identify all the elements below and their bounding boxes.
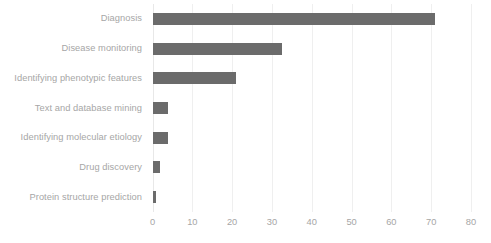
gridline: [471, 4, 472, 212]
x-tick-label: 0: [138, 216, 168, 228]
value-axis: 01020304050607080: [153, 216, 472, 236]
bar: [153, 161, 161, 173]
category-label: Identifying phenotypic features: [0, 73, 142, 84]
x-tick-label: 60: [376, 216, 406, 228]
x-tick-label: 40: [297, 216, 327, 228]
bar: [153, 72, 237, 84]
bar: [153, 132, 169, 144]
category-axis: Diagnosis Disease monitoring Identifying…: [0, 0, 148, 212]
bar: [153, 13, 436, 25]
category-label: Identifying molecular etiology: [0, 132, 142, 143]
bar: [153, 43, 282, 55]
category-label: Protein structure prediction: [0, 192, 142, 203]
bar: [153, 191, 157, 203]
x-tick-label: 70: [416, 216, 446, 228]
x-tick-label: 20: [217, 216, 247, 228]
category-label: Disease monitoring: [0, 43, 142, 54]
bar: [153, 102, 169, 114]
category-label: Text and database mining: [0, 103, 142, 114]
category-label: Drug discovery: [0, 162, 142, 173]
bar-series: [153, 4, 472, 212]
category-label: Diagnosis: [0, 13, 142, 24]
x-tick-label: 80: [456, 216, 486, 228]
bar-chart: Diagnosis Disease monitoring Identifying…: [0, 0, 491, 243]
plot-area: [153, 4, 472, 212]
x-tick-label: 50: [337, 216, 367, 228]
x-tick-label: 30: [257, 216, 287, 228]
x-tick-label: 10: [177, 216, 207, 228]
